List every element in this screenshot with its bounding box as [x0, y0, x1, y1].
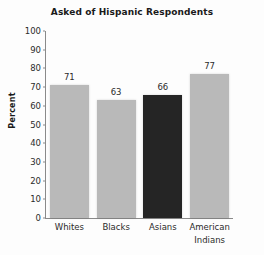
bar[interactable]	[50, 85, 89, 218]
x-tick-label-line: Indians	[186, 234, 233, 247]
y-tick-mark	[43, 218, 45, 219]
y-tick-label: 60	[17, 101, 41, 111]
y-tick-mark	[43, 161, 45, 162]
x-axis-line	[45, 218, 233, 219]
bar[interactable]	[143, 95, 182, 218]
y-tick-mark	[43, 143, 45, 144]
x-tick-label: Asians	[140, 221, 187, 234]
y-tick-label: 50	[17, 120, 41, 130]
y-tick-mark	[43, 199, 45, 200]
y-tick-label: 90	[17, 45, 41, 55]
y-tick-mark	[43, 87, 45, 88]
x-tick-label-line: American	[186, 221, 233, 234]
bar-value-label: 71	[38, 72, 101, 82]
y-tick-mark	[43, 105, 45, 106]
bar-value-label: 66	[131, 82, 194, 92]
y-tick-mark	[43, 31, 45, 32]
x-tick-label-line: Whites	[46, 221, 93, 234]
y-tick-mark	[43, 68, 45, 69]
x-tick-label: Whites	[46, 221, 93, 234]
bar-slot: 77	[190, 31, 229, 218]
y-axis-label: Percent	[8, 81, 17, 141]
y-tick-mark	[43, 124, 45, 125]
bar-value-label: 77	[178, 61, 241, 71]
bar[interactable]	[97, 100, 136, 218]
chart-title: Asked of Hispanic Respondents	[0, 7, 264, 17]
x-tick-label: Blacks	[93, 221, 140, 234]
y-tick-label: 0	[17, 213, 41, 223]
y-tick-mark	[43, 49, 45, 50]
x-tick-label-line: Asians	[140, 221, 187, 234]
y-tick-label: 30	[17, 157, 41, 167]
bar[interactable]	[190, 74, 229, 218]
x-axis-labels: WhitesBlacksAsiansAmericanIndians	[45, 221, 233, 255]
bar-chart: Asked of Hispanic Respondents Percent 10…	[0, 0, 264, 255]
bar-slot: 66	[143, 31, 182, 218]
bar-slot: 71	[50, 31, 89, 218]
x-tick-label: AmericanIndians	[186, 221, 233, 246]
y-tick-label: 100	[17, 26, 41, 36]
y-tick-label: 40	[17, 138, 41, 148]
y-tick-label: 20	[17, 176, 41, 186]
y-tick-mark	[43, 180, 45, 181]
plot-area: 1009080706050403020100 71636677	[45, 31, 233, 218]
bar-slot: 63	[97, 31, 136, 218]
y-tick-label: 10	[17, 194, 41, 204]
y-tick-label: 70	[17, 82, 41, 92]
x-tick-label-line: Blacks	[93, 221, 140, 234]
bar-series: 71636677	[46, 31, 233, 218]
